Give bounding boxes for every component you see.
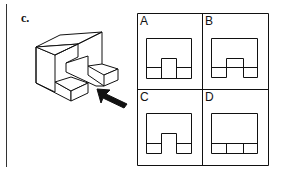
option-a-drawing [147, 39, 192, 79]
option-a-letter: A [140, 14, 148, 28]
option-b-drawing [212, 39, 258, 78]
option-d-drawing [212, 114, 258, 154]
option-c-drawing [147, 114, 192, 154]
options-grid [138, 14, 269, 166]
option-d-letter: D [205, 90, 214, 104]
option-b-letter: B [205, 14, 213, 28]
view-arrow-icon [97, 89, 127, 108]
option-c-letter: C [140, 90, 149, 104]
